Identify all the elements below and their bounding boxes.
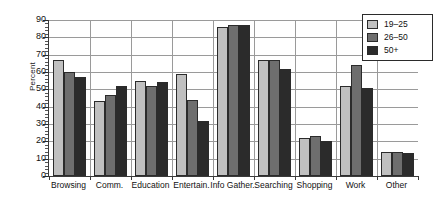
- bar-group-education: [131, 20, 172, 176]
- y-tick-label-80: 80: [6, 32, 46, 41]
- y-tick-label-20: 20: [6, 136, 46, 145]
- bar: [228, 25, 239, 176]
- bar: [75, 77, 86, 176]
- bar: [392, 152, 403, 176]
- bar: [217, 27, 228, 176]
- legend: 19–2526–5050+: [362, 14, 433, 61]
- bar: [310, 136, 321, 176]
- bar: [239, 25, 250, 176]
- legend-label: 26–50: [384, 33, 408, 42]
- y-tick-label-60: 60: [6, 67, 46, 76]
- bar: [198, 121, 209, 176]
- bar: [351, 65, 362, 176]
- bar-chart: Percent 0102030405060708090 19–2526–5050…: [0, 0, 442, 207]
- legend-swatch-icon: [367, 33, 378, 42]
- x-axis-label-other: Other: [370, 180, 423, 190]
- legend-label: 50+: [384, 46, 398, 55]
- bar-group-browsing: [49, 20, 90, 176]
- legend-label: 19–25: [384, 20, 408, 29]
- y-tick-label-40: 40: [6, 102, 46, 111]
- legend-swatch-icon: [367, 20, 378, 29]
- bar: [105, 95, 116, 176]
- y-tick-label-70: 70: [6, 50, 46, 59]
- bar: [135, 81, 146, 176]
- y-tick-label-90: 90: [6, 15, 46, 24]
- y-tick-label-0: 0: [6, 171, 46, 180]
- bar: [64, 72, 75, 176]
- legend-item-1[interactable]: 19–25: [367, 18, 429, 31]
- y-tick-label-50: 50: [6, 84, 46, 93]
- bar-group-comm: [90, 20, 131, 176]
- bar: [94, 101, 105, 176]
- bar: [280, 69, 291, 176]
- bar-group-entertain: [172, 20, 213, 176]
- legend-item-3[interactable]: 50+: [367, 44, 429, 57]
- bar: [53, 60, 64, 176]
- y-tick-label-30: 30: [6, 119, 46, 128]
- y-tick-label-10: 10: [6, 154, 46, 163]
- legend-item-2[interactable]: 26–50: [367, 31, 429, 44]
- bar: [269, 60, 280, 176]
- bar: [187, 100, 198, 176]
- bar: [116, 86, 127, 176]
- bar-group-info-gather: [213, 20, 254, 176]
- bar: [403, 153, 414, 176]
- bar: [299, 138, 310, 176]
- bar: [258, 60, 269, 176]
- bar: [176, 74, 187, 176]
- bar: [362, 88, 373, 176]
- bar: [146, 86, 157, 176]
- legend-swatch-icon: [367, 46, 378, 55]
- bar: [157, 82, 168, 176]
- bar: [381, 152, 392, 176]
- bar-group-shopping: [295, 20, 336, 176]
- bar: [340, 86, 351, 176]
- y-axis-tick-labels: 0102030405060708090: [0, 0, 46, 207]
- bar-group-searching: [254, 20, 295, 176]
- bar: [321, 141, 332, 176]
